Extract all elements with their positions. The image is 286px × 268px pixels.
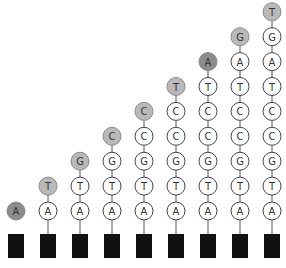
anchor-bead — [136, 234, 152, 258]
nucleotide-label: T — [172, 81, 180, 94]
nucleotide-label: T — [44, 180, 52, 193]
nucleotide: G — [263, 28, 281, 46]
nucleotide: A — [39, 202, 57, 220]
nucleotide: A — [71, 202, 89, 220]
nucleotide-label: A — [45, 205, 52, 218]
nucleotide: T — [199, 78, 217, 96]
nucleotide-label: G — [236, 31, 244, 44]
nucleotide: G — [103, 152, 121, 170]
nucleotide-label: T — [268, 81, 276, 94]
strand-column-3: ATG — [71, 152, 89, 258]
nucleotide-label: A — [237, 56, 244, 69]
strand-column-8: ATGCCTAG — [231, 28, 249, 258]
nucleotide-label: A — [77, 205, 84, 218]
strand-column-6: ATGCCT — [167, 78, 185, 259]
nucleotide: T — [135, 177, 153, 195]
nucleotide-label: C — [269, 105, 276, 118]
anchor-bead — [104, 234, 120, 258]
nucleotide: T — [231, 177, 249, 195]
newest-nucleotide: A — [199, 53, 217, 71]
nucleotide: T — [103, 177, 121, 195]
nucleotide: C — [199, 127, 217, 145]
newest-nucleotide: T — [263, 3, 281, 21]
nucleotide: A — [231, 53, 249, 71]
nucleotide: C — [135, 127, 153, 145]
nucleotide-label: C — [237, 105, 244, 118]
nucleotide-label: C — [173, 105, 180, 118]
newest-nucleotide: G — [71, 152, 89, 170]
strand-column-1: A — [7, 202, 25, 258]
nucleotide-label: T — [236, 180, 244, 193]
nucleotide: A — [103, 202, 121, 220]
strand-column-9: ATGCCTAGT — [263, 3, 281, 258]
nucleotide-label: A — [173, 205, 180, 218]
nucleotide-label: A — [269, 205, 276, 218]
strand-column-2: AT — [39, 177, 57, 258]
nucleotide: G — [263, 152, 281, 170]
nucleotide-label: C — [205, 130, 212, 143]
nucleotide: C — [231, 127, 249, 145]
nucleotide-label: A — [205, 56, 212, 69]
anchor-bead — [8, 234, 24, 258]
nucleotide-label: T — [172, 180, 180, 193]
anchor-bead — [168, 234, 184, 258]
nucleotide: T — [199, 177, 217, 195]
newest-nucleotide: A — [7, 202, 25, 220]
nucleotide-label: C — [173, 130, 180, 143]
nucleotide: C — [263, 102, 281, 120]
nucleotide-label: T — [204, 81, 212, 94]
nucleotide: G — [199, 152, 217, 170]
nucleotide-label: A — [237, 205, 244, 218]
anchor-bead — [264, 234, 280, 258]
nucleotide: A — [135, 202, 153, 220]
nucleotide: A — [263, 53, 281, 71]
strand-column-4: ATGC — [103, 127, 121, 258]
nucleotide-label: A — [269, 56, 276, 69]
newest-nucleotide: G — [231, 28, 249, 46]
nucleotide-label: A — [13, 205, 20, 218]
nucleotide-label: T — [108, 180, 116, 193]
nucleotide: A — [167, 202, 185, 220]
nucleotide-label: T — [236, 81, 244, 94]
nucleotide-label: G — [172, 155, 180, 168]
nucleotide: C — [231, 102, 249, 120]
anchor-bead — [72, 234, 88, 258]
newest-nucleotide: T — [39, 177, 57, 195]
nucleotide-label: A — [141, 205, 148, 218]
nucleotide: A — [263, 202, 281, 220]
nucleotide: C — [263, 127, 281, 145]
nucleotide: T — [263, 177, 281, 195]
nucleotide: G — [231, 152, 249, 170]
nucleotide: G — [167, 152, 185, 170]
anchor-bead — [200, 234, 216, 258]
nucleotide-label: C — [109, 130, 116, 143]
nucleotide-label: G — [76, 155, 84, 168]
anchor-bead — [232, 234, 248, 258]
nucleotide-label: G — [108, 155, 116, 168]
nucleotide: A — [199, 202, 217, 220]
nucleotide-label: G — [268, 155, 276, 168]
newest-nucleotide: T — [167, 78, 185, 96]
nucleotide-label: C — [141, 105, 148, 118]
anchor-bead — [40, 234, 56, 258]
nucleotide-label: A — [205, 205, 212, 218]
nucleotide: C — [167, 127, 185, 145]
nucleotide-label: G — [268, 31, 276, 44]
nucleotide-label: G — [140, 155, 148, 168]
nucleotide: A — [231, 202, 249, 220]
nucleotide-label: C — [141, 130, 148, 143]
nucleotide: T — [263, 78, 281, 96]
strand-column-7: ATGCCTA — [199, 53, 217, 258]
nucleotide-label: C — [205, 105, 212, 118]
nucleotide: C — [199, 102, 217, 120]
nucleotide-label: C — [237, 130, 244, 143]
nucleotide-label: T — [268, 180, 276, 193]
nucleotide-label: G — [236, 155, 244, 168]
strand-column-5: ATGCC — [135, 102, 153, 258]
nucleotide: G — [135, 152, 153, 170]
newest-nucleotide: C — [135, 102, 153, 120]
nucleotide-label: G — [204, 155, 212, 168]
sequencing-ladder-diagram: AATATGATGCATGCCATGCCTATGCCTAATGCCTAGATGC… — [0, 0, 286, 268]
nucleotide-label: T — [140, 180, 148, 193]
nucleotide-label: C — [269, 130, 276, 143]
